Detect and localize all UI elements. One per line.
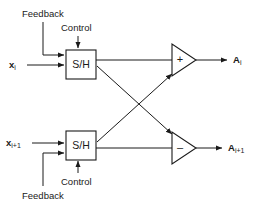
bottom-sh-to-top-amp-wire xyxy=(97,74,172,142)
bottom-output-label: Ai+1 xyxy=(228,142,245,154)
bottom-control-label: Control xyxy=(61,176,92,187)
top-control-label: Control xyxy=(61,22,92,33)
bottom-input-label: xi+1 xyxy=(6,137,21,149)
top-feedback-label: Feedback xyxy=(22,8,64,19)
top-input-subscript: i xyxy=(14,64,16,71)
amplifier-sign-top: + xyxy=(177,53,183,65)
top-output-subscript: i xyxy=(240,59,242,66)
bottom-feedback-label: Feedback xyxy=(22,190,64,201)
sample-hold-label-top: S/H xyxy=(72,58,90,70)
top-output-label: Ai xyxy=(233,54,242,66)
amplifier-sign-bottom: – xyxy=(177,141,184,153)
top-input-label: xi xyxy=(9,59,16,71)
bottom-output-subscript: i+1 xyxy=(235,147,245,154)
amplifier-bottom-difference[interactable] xyxy=(172,132,196,164)
signal-flow-diagram-layer-2: Feedback Control xi S/H + Ai xi+1 S/H Co… xyxy=(0,0,262,211)
diagram-canvas: Feedback Control xi S/H + Ai xi+1 S/H Co… xyxy=(0,0,262,211)
bottom-input-subscript: i+1 xyxy=(11,142,21,149)
sample-hold-label-bottom: S/H xyxy=(72,139,90,151)
